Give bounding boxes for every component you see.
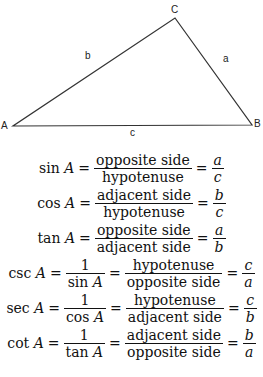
formula-cot: cot A = 1tan A = adjacent sideopposite s…: [0, 326, 263, 360]
triangle-shape: [13, 18, 252, 126]
equals-sign: =: [50, 266, 62, 280]
vertex-label-c: C: [171, 4, 178, 15]
formula-lhs: cos A: [37, 196, 75, 210]
equals-sign: =: [78, 161, 90, 175]
equals-sign: =: [48, 301, 60, 315]
equals-sign: =: [109, 336, 121, 350]
result-fraction: bc: [213, 187, 226, 220]
formula-lhs: cot A: [7, 336, 43, 350]
ratio-fraction: opposite sideadjacent side: [95, 222, 193, 255]
equals-sign: =: [197, 231, 209, 245]
equals-sign: =: [109, 266, 121, 280]
formula-sec: sec A = 1cos A = hypotenuseadjacent side…: [0, 291, 263, 325]
formula-lhs: sin A: [39, 161, 74, 175]
equals-sign: =: [196, 161, 208, 175]
equals-sign: =: [228, 301, 240, 315]
formula-csc: csc A = 1sin A = hypotenuseopposite side…: [0, 256, 263, 290]
formula-lhs: csc A: [9, 266, 46, 280]
result-fraction: cb: [244, 292, 257, 325]
result-fraction: ab: [213, 222, 226, 255]
equals-sign: =: [227, 336, 239, 350]
side-label-a: a: [223, 53, 229, 64]
reciprocal-fraction: 1tan A: [64, 327, 106, 360]
result-fraction: ba: [243, 327, 256, 360]
ratio-fraction: hypotenuseadjacent side: [126, 292, 224, 325]
equals-sign: =: [79, 231, 91, 245]
equals-sign: =: [110, 301, 122, 315]
equals-sign: =: [79, 196, 91, 210]
triangle-diagram: [0, 0, 263, 140]
side-label-b: b: [85, 50, 91, 61]
formula-sin: sin A = opposite sidehypotenuse = ac: [0, 151, 263, 185]
equals-sign: =: [226, 266, 238, 280]
formula-lhs: sec A: [6, 301, 44, 315]
result-fraction: ca: [242, 257, 254, 290]
ratio-fraction: opposite sidehypotenuse: [94, 152, 192, 185]
side-label-c: c: [130, 127, 135, 138]
formula-tan: tan A = opposite sideadjacent side = ab: [0, 221, 263, 255]
ratio-fraction: hypotenuseopposite side: [125, 257, 223, 290]
equals-sign: =: [48, 336, 60, 350]
equals-sign: =: [197, 196, 209, 210]
reciprocal-fraction: 1sin A: [66, 257, 105, 290]
result-fraction: ac: [212, 152, 224, 185]
vertex-label-a: A: [1, 120, 8, 131]
ratio-fraction: adjacent sideopposite side: [125, 327, 223, 360]
formula-cos: cos A = adjacent sidehypotenuse = bc: [0, 186, 263, 220]
reciprocal-fraction: 1cos A: [64, 292, 106, 325]
formula-lhs: tan A: [37, 231, 75, 245]
vertex-label-b: B: [254, 118, 261, 129]
ratio-fraction: adjacent sidehypotenuse: [95, 187, 193, 220]
